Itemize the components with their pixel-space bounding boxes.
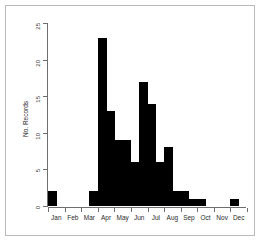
chart-screenshot: No. Records 0510152025 JanFebMarAprMayJu… xyxy=(0,0,262,243)
histogram-bar xyxy=(48,191,57,206)
histogram-bars xyxy=(48,23,247,206)
y-axis-tick xyxy=(43,206,47,207)
y-axis-tick-label: 5 xyxy=(35,169,41,187)
x-axis-tick xyxy=(148,208,149,212)
y-axis-tick xyxy=(43,133,47,134)
plot-area xyxy=(48,23,247,206)
x-axis-tick xyxy=(65,208,66,212)
x-axis-tick xyxy=(230,208,231,212)
y-axis-tick xyxy=(43,23,47,24)
x-axis-tick xyxy=(131,208,132,212)
x-axis-tick xyxy=(81,208,82,212)
x-axis-tick xyxy=(164,208,165,212)
y-axis-tick-label: 20 xyxy=(35,60,41,78)
histogram-bar xyxy=(197,199,206,206)
y-axis-tick xyxy=(43,96,47,97)
x-axis-tick xyxy=(48,208,49,212)
y-axis-title: No. Records xyxy=(22,100,29,136)
y-axis-tick-label: 25 xyxy=(35,23,41,41)
y-axis-tick xyxy=(43,60,47,61)
x-axis-tick xyxy=(181,208,182,212)
x-axis-tick xyxy=(197,208,198,212)
y-axis-tick xyxy=(43,169,47,170)
y-axis-tick-label: 0 xyxy=(35,206,41,224)
x-axis-tick xyxy=(98,208,99,212)
x-axis-tick xyxy=(114,208,115,212)
y-axis-tick-label: 10 xyxy=(35,133,41,151)
x-axis-tick xyxy=(247,208,248,212)
x-axis-tick-label: Dec xyxy=(227,214,251,222)
x-axis-tick xyxy=(214,208,215,212)
histogram-bar xyxy=(230,199,239,206)
y-axis-tick-label: 15 xyxy=(35,96,41,114)
